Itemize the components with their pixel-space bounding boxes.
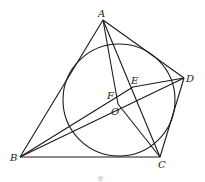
geometry-diagram: A B C D E F O 图 [0,0,205,182]
label-A: A [97,8,105,19]
label-F: F [106,90,115,101]
segment-ED [133,78,184,87]
segment-CD [160,78,184,157]
label-D: D [185,73,194,84]
label-B: B [9,152,17,163]
segment-OC [118,104,160,157]
segment-BE [20,87,133,157]
inscribed-circle [63,44,175,156]
segment-BD [20,78,184,157]
figure-caption: 图 [98,175,103,182]
label-E: E [130,75,139,86]
label-O: O [111,106,119,117]
label-C: C [158,159,166,170]
